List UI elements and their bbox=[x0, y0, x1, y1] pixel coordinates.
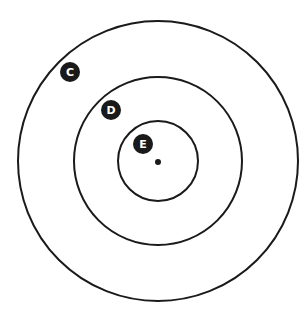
label-c-text: C bbox=[66, 66, 74, 79]
label-e-badge: E bbox=[133, 134, 153, 154]
concentric-circles-diagram: C D E bbox=[0, 0, 308, 319]
label-c-badge: C bbox=[60, 62, 80, 82]
center-dot bbox=[155, 159, 161, 165]
label-d-text: D bbox=[106, 104, 115, 117]
label-e-text: E bbox=[139, 138, 147, 151]
label-d-badge: D bbox=[101, 100, 121, 120]
